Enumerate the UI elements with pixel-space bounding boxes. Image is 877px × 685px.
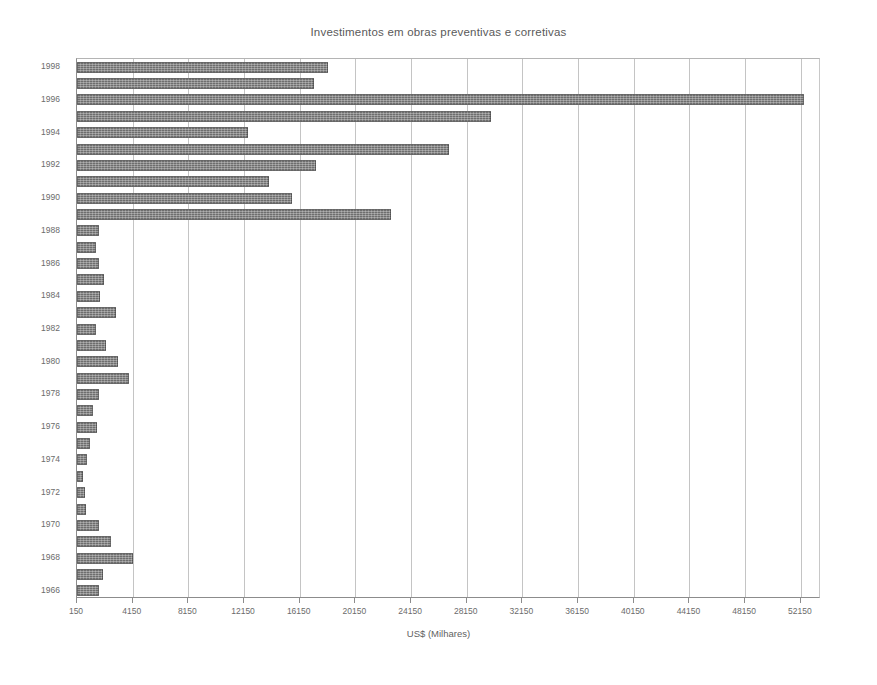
x-tick-36150: 36150	[565, 606, 589, 616]
y-tick-1986: 1986	[41, 258, 60, 268]
y-tick-1984: 1984	[41, 290, 60, 300]
bar-1973	[77, 471, 83, 482]
bar-1998	[77, 62, 328, 73]
bar-1992	[77, 160, 316, 171]
bar-1991	[77, 176, 269, 187]
x-tick-8150: 8150	[178, 606, 197, 616]
bar-row	[77, 487, 820, 498]
bar-1977	[77, 405, 93, 416]
y-tick-1998: 1998	[41, 61, 60, 71]
bar-1970	[77, 520, 99, 531]
y-tick-1994: 1994	[41, 127, 60, 137]
bar-row	[77, 176, 820, 187]
x-tick-4150: 4150	[122, 606, 141, 616]
x-tick-20150: 20150	[343, 606, 367, 616]
y-tick-1978: 1978	[41, 388, 60, 398]
bar-row	[77, 504, 820, 515]
y-tick-1980: 1980	[41, 356, 60, 366]
bar-row	[77, 389, 820, 400]
bar-1972	[77, 487, 85, 498]
x-tick-52150: 52150	[788, 606, 812, 616]
y-tick-1996: 1996	[41, 94, 60, 104]
bar-row	[77, 78, 820, 89]
bar-row	[77, 111, 820, 122]
x-tick-16150: 16150	[287, 606, 311, 616]
bar-row	[77, 127, 820, 138]
bar-row	[77, 356, 820, 367]
x-tickmark	[299, 598, 300, 603]
y-tick-1976: 1976	[41, 421, 60, 431]
bar-1990	[77, 193, 292, 204]
bar-row	[77, 274, 820, 285]
bar-1982	[77, 324, 96, 335]
bar-row	[77, 373, 820, 384]
bar-row	[77, 569, 820, 580]
x-tickmark	[577, 598, 578, 603]
x-tick-48150: 48150	[732, 606, 756, 616]
bar-row	[77, 62, 820, 73]
x-axis-title: US$ (Milhares)	[0, 628, 877, 639]
bar-1994	[77, 127, 248, 138]
bar-1986	[77, 258, 99, 269]
bar-1968	[77, 553, 133, 564]
bar-1971	[77, 504, 86, 515]
x-tickmark	[132, 598, 133, 603]
x-tick-32150: 32150	[510, 606, 534, 616]
y-tick-1968: 1968	[41, 552, 60, 562]
bar-row	[77, 340, 820, 351]
y-tick-1982: 1982	[41, 323, 60, 333]
bar-1979	[77, 373, 129, 384]
x-tickmark	[800, 598, 801, 603]
bar-row	[77, 307, 820, 318]
y-axis-tick-labels: 1998199619941992199019881986198419821980…	[0, 58, 70, 598]
bar-row	[77, 454, 820, 465]
chart-figure: Investimentos em obras preventivas e cor…	[0, 0, 877, 685]
bar-1978	[77, 389, 99, 400]
bar-1966	[77, 585, 99, 596]
bar-1993	[77, 144, 449, 155]
x-axis-tick-labels: 1504150815012150161502015024150281503215…	[0, 606, 877, 622]
x-tick-28150: 28150	[454, 606, 478, 616]
bar-row	[77, 536, 820, 547]
y-tick-1992: 1992	[41, 159, 60, 169]
bar-row	[77, 291, 820, 302]
x-tickmark	[354, 598, 355, 603]
bar-1983	[77, 307, 116, 318]
bar-row	[77, 438, 820, 449]
bar-1997	[77, 78, 314, 89]
bar-1975	[77, 438, 90, 449]
bar-row	[77, 209, 820, 220]
bar-row	[77, 242, 820, 253]
x-tickmark	[76, 598, 77, 603]
x-tickmark	[187, 598, 188, 603]
y-tick-1972: 1972	[41, 487, 60, 497]
bar-row	[77, 225, 820, 236]
bar-row	[77, 94, 820, 105]
chart-title: Investimentos em obras preventivas e cor…	[0, 26, 877, 38]
bar-row	[77, 324, 820, 335]
bar-row	[77, 144, 820, 155]
x-tick-150: 150	[69, 606, 83, 616]
bar-row	[77, 471, 820, 482]
bar-row	[77, 422, 820, 433]
bar-1996	[77, 94, 804, 105]
bar-1985	[77, 274, 104, 285]
x-tick-40150: 40150	[621, 606, 645, 616]
x-tickmark	[633, 598, 634, 603]
bar-row	[77, 585, 820, 596]
bar-1989	[77, 209, 391, 220]
bar-1974	[77, 454, 87, 465]
bar-row	[77, 520, 820, 531]
x-tick-24150: 24150	[398, 606, 422, 616]
x-tick-44150: 44150	[677, 606, 701, 616]
bar-1969	[77, 536, 111, 547]
bar-1988	[77, 225, 99, 236]
y-tick-1988: 1988	[41, 225, 60, 235]
plot-area	[76, 58, 820, 598]
x-tickmark	[243, 598, 244, 603]
bar-1995	[77, 111, 491, 122]
x-tickmark	[744, 598, 745, 603]
y-tick-1966: 1966	[41, 585, 60, 595]
bar-row	[77, 258, 820, 269]
bar-row	[77, 405, 820, 416]
